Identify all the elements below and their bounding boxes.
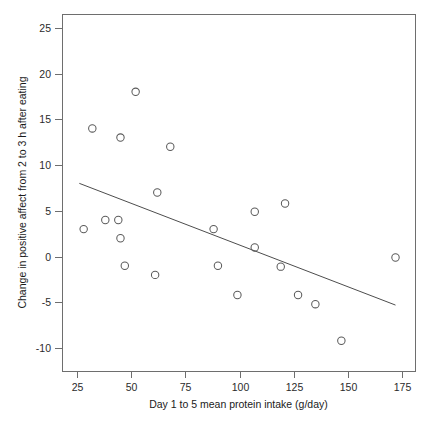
data-point-marker	[102, 216, 109, 223]
x-tick-label: 125	[286, 381, 304, 393]
y-tick-label: 15	[39, 113, 51, 125]
scatter-plot-figure: 255075100125150175 2520151050-5-10 Day 1…	[0, 0, 429, 429]
trend-line	[79, 183, 395, 305]
data-point-marker	[132, 88, 139, 95]
data-point-marker	[154, 189, 161, 196]
x-tick-label: 100	[232, 381, 250, 393]
y-tick-label: -5	[42, 296, 51, 308]
regression-line	[79, 183, 395, 305]
y-tick-label: 0	[45, 251, 51, 263]
data-point-marker	[151, 271, 158, 278]
x-axis-title: Day 1 to 5 mean protein intake (g/day)	[149, 398, 328, 410]
data-point-marker	[167, 143, 174, 150]
y-axis-title: Change in positive affect from 2 to 3 h …	[16, 76, 28, 308]
x-tick-label: 50	[126, 381, 138, 393]
y-tick-label: 25	[39, 22, 51, 34]
data-point-marker	[251, 244, 258, 251]
x-tick-label: 150	[340, 381, 358, 393]
data-point-marker	[117, 235, 124, 242]
data-point-marker	[277, 263, 284, 270]
data-point-marker	[80, 225, 87, 232]
x-tick-label: 75	[180, 381, 192, 393]
x-tick-label: 25	[72, 381, 84, 393]
data-point-marker	[210, 225, 217, 232]
plot-canvas: 255075100125150175 2520151050-5-10 Day 1…	[0, 0, 429, 429]
data-point-marker	[251, 208, 258, 215]
data-point-marker	[338, 337, 345, 344]
plot-frame	[63, 15, 416, 372]
data-point-marker	[89, 125, 96, 132]
x-axis: 255075100125150175	[72, 371, 412, 393]
y-axis: 2520151050-5-10	[36, 22, 62, 354]
data-point-marker	[117, 134, 124, 141]
data-point-marker	[121, 262, 128, 269]
data-point-marker	[115, 216, 122, 223]
data-point-marker	[294, 291, 301, 298]
data-point-marker	[214, 262, 221, 269]
data-point-marker	[392, 254, 399, 261]
data-point-marker	[234, 291, 241, 298]
data-point-marker	[312, 300, 319, 307]
y-tick-label: -10	[36, 342, 51, 354]
y-tick-label: 20	[39, 68, 51, 80]
y-tick-label: 5	[45, 205, 51, 217]
x-tick-label: 175	[394, 381, 412, 393]
data-points	[80, 88, 399, 344]
y-tick-label: 10	[39, 159, 51, 171]
data-point-marker	[281, 200, 288, 207]
